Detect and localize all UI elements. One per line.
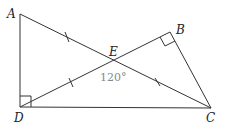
label-a: A bbox=[6, 7, 16, 21]
segment-bc bbox=[170, 32, 211, 108]
label-e: E bbox=[108, 45, 118, 59]
label-b: B bbox=[175, 23, 185, 37]
angle-label: 120° bbox=[100, 71, 127, 84]
right-angle-marker-b bbox=[160, 37, 175, 46]
segment-db bbox=[20, 32, 170, 107]
right-angle-marker-d bbox=[20, 96, 31, 107]
geometry-diagram: A B E C D 120° bbox=[0, 0, 229, 125]
segment-dc bbox=[20, 107, 211, 108]
label-c: C bbox=[206, 111, 215, 125]
label-d: D bbox=[13, 111, 24, 125]
tick-ae bbox=[65, 32, 69, 42]
